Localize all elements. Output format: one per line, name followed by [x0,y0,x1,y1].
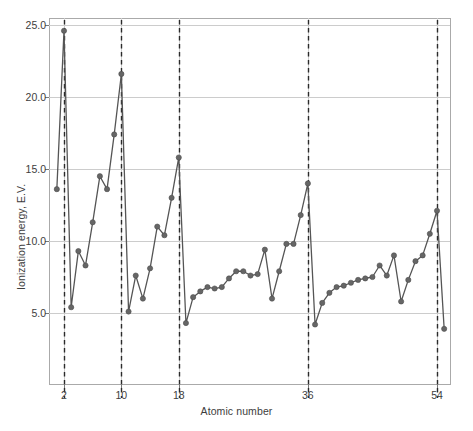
data-point [291,241,296,246]
y-axis-tick-label: 20.0 [0,91,46,103]
data-point [83,263,88,268]
data-point [327,290,332,295]
data-point [377,263,382,268]
y-axis-tick-label: 5.0 [0,307,46,319]
data-point [305,181,310,186]
data-point [399,299,404,304]
data-point [391,253,396,258]
data-point [384,273,389,278]
x-axis-tick-label: 54 [431,389,443,401]
x-axis-tick-label: 10 [116,389,128,401]
data-point [119,71,124,76]
data-point [277,269,282,274]
data-point [112,132,117,137]
data-point [140,296,145,301]
y-axis-tick-label: 25.0 [0,19,46,31]
data-point [420,253,425,258]
data-point [434,208,439,213]
data-point [61,28,66,33]
data-point [298,212,303,217]
data-point [205,284,210,289]
data-point [255,272,260,277]
data-point [69,305,74,310]
data-point [155,224,160,229]
data-point [248,273,253,278]
data-point [54,187,59,192]
data-point [147,266,152,271]
data-point [97,174,102,179]
data-point [191,295,196,300]
y-axis-label-container: Ionization energy, E.V. [0,130,18,290]
data-point [126,309,131,314]
data-point [370,274,375,279]
data-point [169,195,174,200]
data-point [133,273,138,278]
data-point [262,247,267,252]
plot-frame [50,19,451,385]
x-axis-tick-label: 18 [173,389,185,401]
data-point [348,280,353,285]
data-point [442,326,447,331]
data-point [212,286,217,291]
data-point [284,241,289,246]
data-point [320,300,325,305]
data-point [269,296,274,301]
data-point [427,231,432,236]
ionization-energy-chart: 5.010.015.020.025.0 Ionization energy, E… [0,0,473,431]
data-point [241,269,246,274]
data-point [406,277,411,282]
data-point [183,320,188,325]
data-point [363,276,368,281]
data-point [198,289,203,294]
data-point [413,259,418,264]
x-axis-tick-label: 36 [302,389,314,401]
chart-svg [0,0,473,431]
data-point [176,155,181,160]
data-point [334,284,339,289]
data-point [219,284,224,289]
data-point [104,187,109,192]
data-point [341,283,346,288]
data-point [76,248,81,253]
y-axis-label: Ionization energy, E.V. [15,184,27,290]
data-point [356,277,361,282]
data-point [312,322,317,327]
data-point [162,233,167,238]
data-point [234,269,239,274]
data-point [90,220,95,225]
x-axis-label: Atomic number [0,405,473,417]
x-axis-tick-label: 2 [61,389,67,401]
data-point [226,276,231,281]
